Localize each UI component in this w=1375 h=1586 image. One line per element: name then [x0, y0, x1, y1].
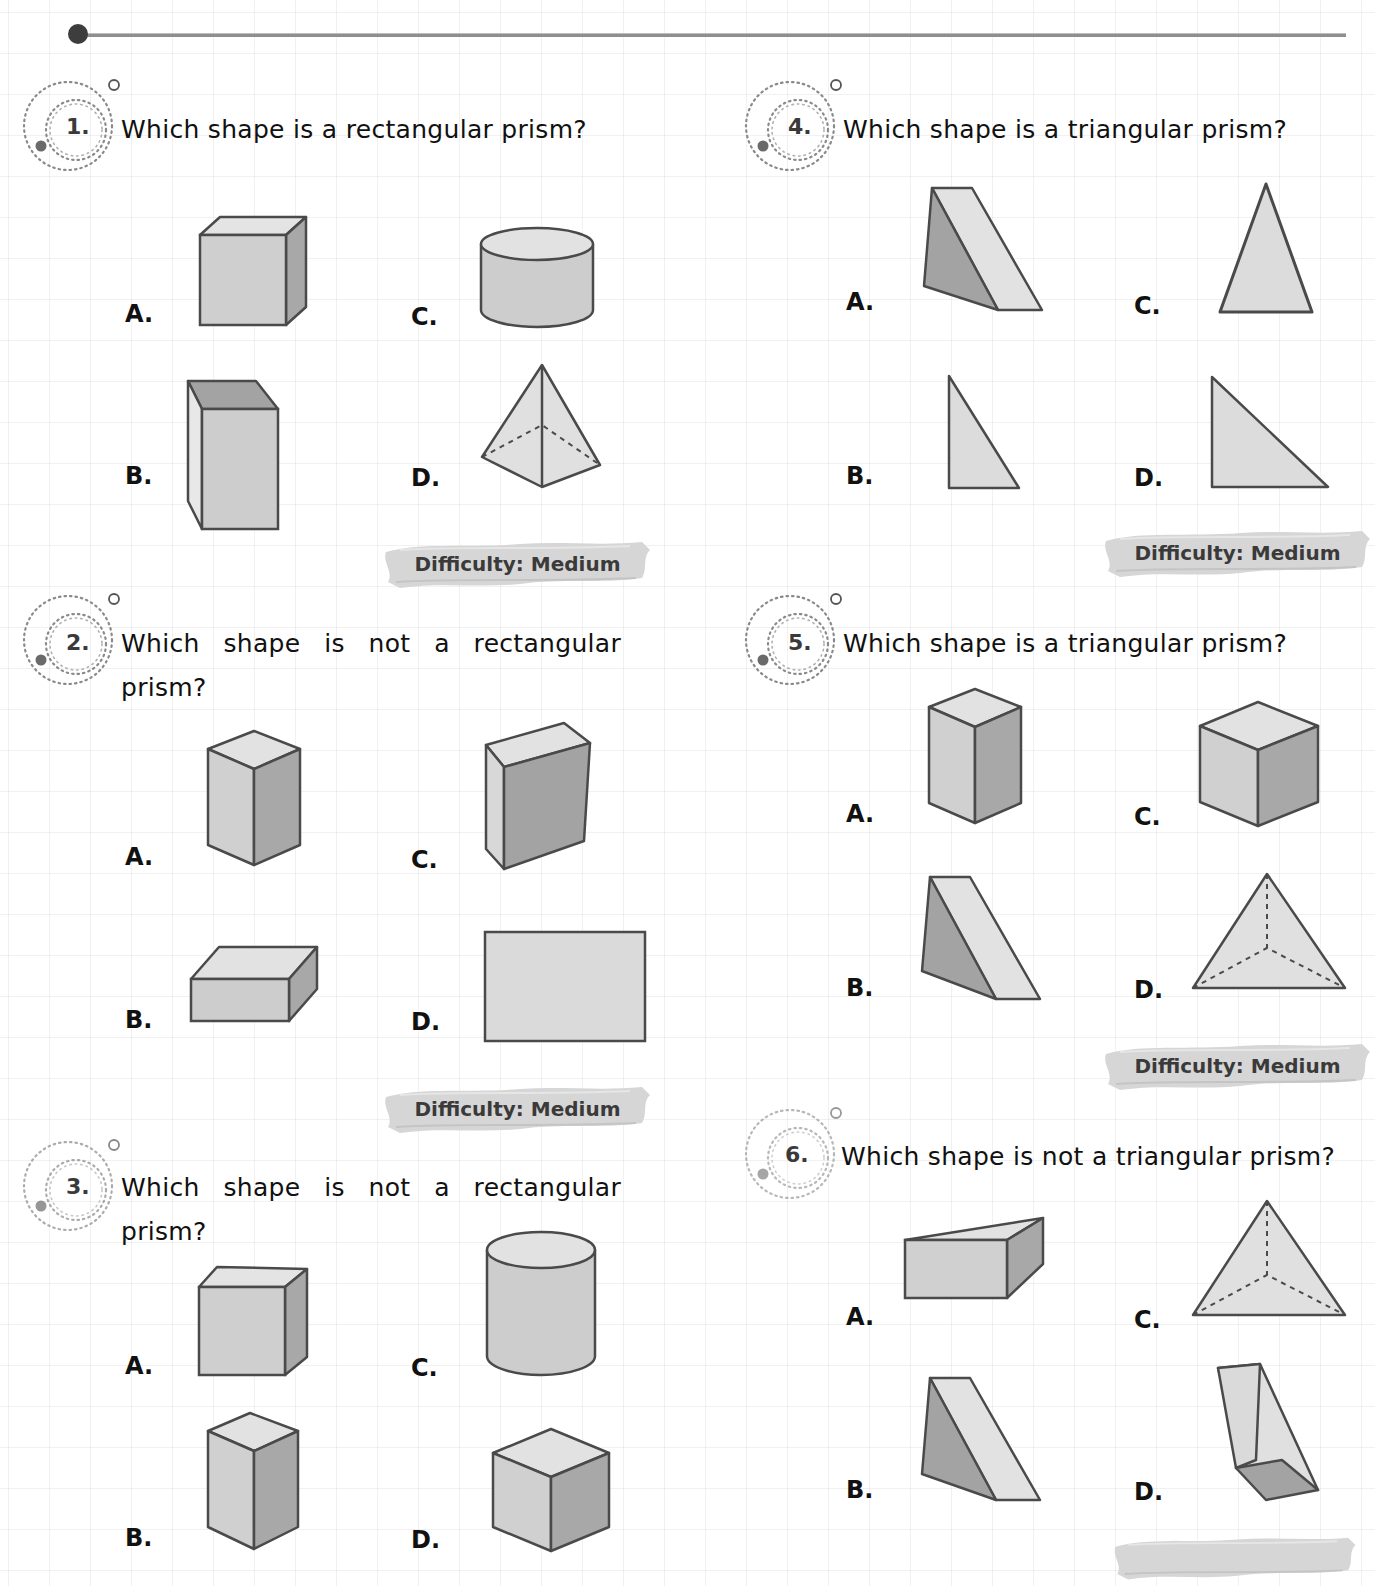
tall-rectangular-prism-shape[interactable]: [927, 687, 1025, 827]
question-text: Which shape is a triangular prism?: [843, 622, 1343, 666]
triangular-prism-shape[interactable]: [922, 186, 1046, 314]
option-label-a[interactable]: A.: [846, 288, 874, 316]
option-label-a[interactable]: A.: [125, 843, 153, 871]
slanted-rectangular-prism-shape[interactable]: [484, 721, 594, 873]
option-label-b[interactable]: B.: [125, 462, 152, 490]
brush-stroke-icon: [1110, 1534, 1360, 1581]
square-pyramid-shape[interactable]: [478, 363, 604, 490]
triangular-prism-shape[interactable]: [920, 1376, 1044, 1504]
question-text: Which shape is a rectangular prism?: [121, 108, 641, 152]
option-label-c[interactable]: C.: [411, 1354, 438, 1382]
option-label-d[interactable]: D.: [411, 1526, 440, 1554]
option-label-c[interactable]: C.: [1134, 1306, 1161, 1334]
option-label-c[interactable]: C.: [411, 846, 438, 874]
difficulty-text: Difficulty: Medium: [415, 1097, 621, 1121]
question-text: Which shape is a triangular prism?: [843, 108, 1343, 152]
difficulty-text: Difficulty: Medium: [1135, 541, 1341, 565]
cylinder-shape[interactable]: [484, 1230, 598, 1378]
option-label-b[interactable]: B.: [846, 1476, 873, 1504]
right-triangle-shape[interactable]: [1210, 375, 1332, 491]
cube-shape[interactable]: [197, 1265, 310, 1379]
isosceles-triangle-shape[interactable]: [1218, 182, 1314, 316]
option-label-d[interactable]: D.: [411, 1008, 440, 1036]
cube-shape[interactable]: [1198, 700, 1322, 830]
option-label-a[interactable]: A.: [125, 1352, 153, 1380]
difficulty-text: Difficulty: Medium: [415, 552, 621, 576]
option-label-b[interactable]: B.: [125, 1006, 152, 1034]
question-number: 2.: [66, 630, 90, 655]
header-rule-dot: [68, 24, 88, 44]
option-label-b[interactable]: B.: [846, 974, 873, 1002]
difficulty-badge: [1110, 1534, 1360, 1586]
question-text: Which shape is not a rectangular prism?: [121, 622, 621, 710]
right-triangle-shape[interactable]: [947, 374, 1023, 490]
difficulty-badge: Difficulty: Medium: [1100, 527, 1375, 579]
option-label-d[interactable]: D.: [411, 464, 440, 492]
option-label-d[interactable]: D.: [1134, 464, 1163, 492]
option-label-d[interactable]: D.: [1134, 976, 1163, 1004]
option-label-a[interactable]: A.: [846, 1303, 874, 1331]
cube-shape[interactable]: [491, 1427, 613, 1552]
option-label-d[interactable]: D.: [1134, 1478, 1163, 1506]
flat-rectangular-prism-shape[interactable]: [189, 945, 321, 1025]
option-label-c[interactable]: C.: [1134, 292, 1161, 320]
option-label-b[interactable]: B.: [125, 1524, 152, 1552]
tall-rectangular-prism-shape[interactable]: [206, 1411, 304, 1551]
option-label-a[interactable]: A.: [846, 800, 874, 828]
question-number: 1.: [66, 114, 90, 139]
difficulty-badge: Difficulty: Medium: [1100, 1040, 1375, 1092]
triangular-prism-flat-shape[interactable]: [903, 1216, 1047, 1302]
triangular-pyramid-shape[interactable]: [1191, 1199, 1347, 1319]
option-label-c[interactable]: C.: [411, 303, 438, 331]
cube-shape[interactable]: [198, 215, 310, 327]
tilted-triangular-prism-shape[interactable]: [1214, 1362, 1320, 1504]
difficulty-badge: Difficulty: Medium: [380, 1083, 655, 1135]
rectangle-shape[interactable]: [483, 930, 647, 1043]
option-label-a[interactable]: A.: [125, 300, 153, 328]
option-label-b[interactable]: B.: [846, 462, 873, 490]
question-number: 6.: [785, 1142, 809, 1167]
question-number: 4.: [788, 114, 812, 139]
question-number: 5.: [788, 630, 812, 655]
cylinder-shape[interactable]: [478, 226, 596, 330]
difficulty-text: Difficulty: Medium: [1135, 1054, 1341, 1078]
tall-rectangular-prism-shape[interactable]: [206, 729, 302, 869]
question-number: 3.: [66, 1174, 90, 1199]
triangular-prism-shape[interactable]: [920, 875, 1044, 1003]
tall-rectangular-prism-shape[interactable]: [186, 379, 281, 532]
difficulty-badge: Difficulty: Medium: [380, 538, 655, 590]
question-text: Which shape is not a triangular prism?: [841, 1135, 1346, 1179]
header-rule: [78, 33, 1346, 37]
option-label-c[interactable]: C.: [1134, 803, 1161, 831]
triangular-pyramid-shape[interactable]: [1191, 872, 1347, 992]
